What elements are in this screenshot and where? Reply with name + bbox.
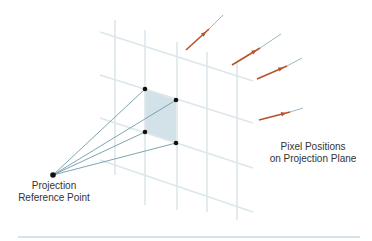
- pixel-corner-dot: [174, 141, 179, 146]
- reference-point-dot: [50, 172, 56, 178]
- diagram-canvas: [0, 0, 372, 241]
- projection-diagram: Projection Reference Point Pixel Positio…: [0, 0, 372, 241]
- pixel-corner-dot: [174, 98, 179, 103]
- pixel-corner-dot: [143, 130, 148, 135]
- projection-ray: [53, 89, 145, 175]
- arrow-extension-line: [287, 58, 302, 66]
- reference-point-label-line2: Reference Point: [14, 192, 94, 204]
- arrow-extension-line: [260, 34, 281, 48]
- pixel-corner-dot: [143, 87, 148, 92]
- pixel-positions-label-line2: on Projection Plane: [263, 153, 363, 165]
- pixel-positions-label-line1: Pixel Positions: [263, 141, 363, 153]
- reference-point-label: Projection Reference Point: [14, 180, 94, 204]
- reference-point-label-line1: Projection: [14, 180, 94, 192]
- arrow-extension-line: [290, 108, 303, 112]
- arrow-extension-line: [209, 15, 223, 29]
- projection-ray: [53, 132, 145, 175]
- pixel-positions-label: Pixel Positions on Projection Plane: [263, 141, 363, 165]
